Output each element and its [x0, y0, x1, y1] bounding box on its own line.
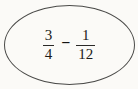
fraction-denominator: 12 [76, 45, 95, 63]
math-expression: 3 4 − 1 12 [43, 28, 96, 63]
scanned-math-snippet: 3 4 − 1 12 [0, 0, 138, 89]
fraction-denominator: 4 [43, 45, 55, 63]
minus-operator: − [61, 34, 69, 52]
fraction-three-fourths: 3 4 [43, 28, 55, 63]
oval-border: 3 4 − 1 12 [4, 5, 135, 85]
fraction-one-twelfth: 1 12 [76, 28, 95, 63]
fraction-numerator: 3 [43, 28, 55, 45]
fraction-numerator: 1 [80, 28, 92, 45]
